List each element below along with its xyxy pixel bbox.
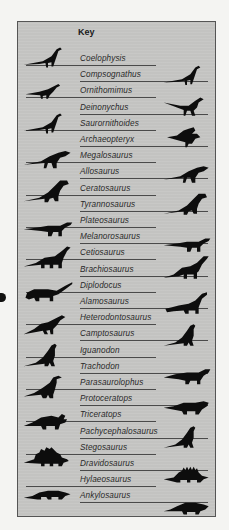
dinosaur-name: Ankylosaurus: [80, 491, 130, 500]
dinosaur-name: Hylaeosaurus: [80, 475, 131, 484]
dinosaur-name: Megalosaurus: [80, 151, 133, 160]
megalosaurus-silhouette-icon: [22, 144, 74, 170]
dinosaur-name: Dravidosaurus: [80, 459, 134, 468]
dinosaur-name: Compsognathus: [80, 70, 141, 79]
dinosaur-name: Trachodon: [80, 362, 119, 371]
dinosaur-name: Melanorosaurus: [80, 232, 140, 241]
deinonychus-silhouette-icon: [162, 92, 212, 118]
dinosaur-name: Plateosaurus: [80, 216, 129, 225]
stegosaurus-silhouette-icon: [22, 442, 74, 468]
camptosaurus-silhouette-icon: [162, 322, 212, 348]
cetiosaurus-silhouette-icon: [22, 244, 74, 270]
brachiosaurus-silhouette-icon: [162, 254, 212, 280]
dinosaur-name: Parasaurolophus: [80, 378, 143, 387]
plateosaurus-silhouette-icon: [22, 212, 74, 238]
dinosaur-name: Alamosaurus: [80, 297, 129, 306]
ankylosaurus-silhouette-icon: [162, 494, 212, 520]
coelophysis-silhouette-icon: [22, 44, 74, 70]
dinosaur-name: Ceratosaurus: [80, 184, 130, 193]
alamosaurus-silhouette-icon: [162, 290, 212, 316]
dinosaur-name: Tyrannosaurus: [80, 200, 135, 209]
dinosaur-name: Iguanodon: [80, 346, 120, 355]
compsognathus-silhouette-icon: [162, 62, 212, 88]
key-title: Key: [78, 27, 95, 37]
protoceratops-silhouette-icon: [162, 394, 212, 420]
dinosaur-name: Triceratops: [80, 410, 121, 419]
ornithomimus-silhouette-icon: [22, 77, 74, 103]
dinosaur-name: Cetiosaurus: [80, 248, 125, 257]
dinosaur-name: Archaeopteryx: [80, 135, 134, 144]
dinosaur-name: Diplodocus: [80, 281, 122, 290]
dinosaur-name: Protoceratops: [80, 394, 132, 403]
ceratosaurus-silhouette-icon: [22, 177, 74, 203]
pachycephalosaurus-silhouette-icon: [162, 424, 212, 450]
diplodocus-silhouette-icon: [22, 277, 74, 303]
dinosaur-name: Ornithomimus: [80, 86, 132, 95]
archaeopteryx-silhouette-icon: [162, 125, 212, 151]
triceratops-silhouette-icon: [22, 407, 74, 433]
dinosaur-name: Camptosaurus: [80, 329, 134, 338]
dinosaur-name: Brachiosaurus: [80, 265, 134, 274]
dinosaur-name: Pachycephalosaurus: [80, 427, 158, 436]
dinosaur-name: Allosaurus: [80, 167, 119, 176]
trachodon-silhouette-icon: [162, 362, 212, 388]
dinosaur-name: Deinonychus: [80, 103, 128, 112]
heterodontosaurus-silhouette-icon: [22, 310, 74, 336]
parasaurolophus-silhouette-icon: [22, 374, 74, 400]
saurornithoides-silhouette-icon: [22, 110, 74, 136]
dinosaur-name: Coelophysis: [80, 54, 126, 63]
dinosaur-name: Saurornithoides: [80, 119, 139, 128]
allosaurus-silhouette-icon: [162, 159, 212, 185]
hylaeosaurus-silhouette-icon: [22, 477, 74, 503]
dravidosaurus-silhouette-icon: [162, 462, 212, 488]
edge-fragment: [0, 293, 6, 302]
dinosaur-name: Heterodontosaurus: [80, 313, 151, 322]
dinosaur-key-panel: Key CoelophysisCompsognathusOrnithomimus…: [17, 21, 216, 517]
dinosaur-name: Stegosaurus: [80, 443, 127, 452]
melanorosaurus-silhouette-icon: [162, 228, 212, 254]
tyrannosaurus-silhouette-icon: [162, 190, 212, 216]
iguanodon-silhouette-icon: [22, 342, 74, 368]
